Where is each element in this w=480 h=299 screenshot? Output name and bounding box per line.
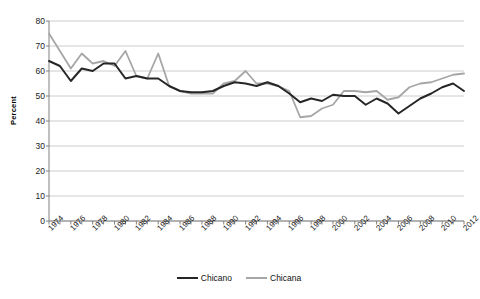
- x-axis-tick-label: 1984: [156, 214, 174, 232]
- x-axis-tick-label: 1990: [222, 214, 240, 232]
- chart-legend: ChicanoChicana: [0, 273, 478, 283]
- legend-swatch-icon: [177, 277, 198, 279]
- legend-item-chicana[interactable]: Chicana: [246, 273, 301, 283]
- x-axis-tick-label: 1994: [265, 214, 283, 232]
- x-axis-tick-label: 2004: [375, 214, 393, 232]
- legend-label: Chicana: [270, 273, 301, 283]
- legend-label: Chicano: [201, 273, 232, 283]
- x-axis-tick-label: 2010: [440, 214, 458, 232]
- x-axis-tick-label: 1982: [134, 214, 152, 232]
- x-axis-tick-label: 1988: [200, 214, 218, 232]
- x-axis-tick-label: 2012: [462, 214, 480, 232]
- x-axis-tick-label: 1978: [91, 214, 109, 232]
- legend-item-chicano[interactable]: Chicano: [177, 273, 232, 283]
- x-axis-tick-label: 1996: [287, 214, 305, 232]
- x-axis-tick-label: 1986: [178, 214, 196, 232]
- x-axis-tick-label: 1980: [113, 214, 131, 232]
- x-axis-tick-label: 1992: [244, 214, 262, 232]
- x-axis-tick-label: 2006: [396, 214, 414, 232]
- x-axis-tick-label: 1976: [69, 214, 87, 232]
- x-axis-tick-label: 2000: [331, 214, 349, 232]
- x-axis-tick-label: 1974: [47, 214, 65, 232]
- x-axis-tick-label: 2002: [353, 214, 371, 232]
- legend-swatch-icon: [246, 277, 267, 279]
- x-axis-tick-label: 2008: [418, 214, 436, 232]
- x-axis-tick-label: 1998: [309, 214, 327, 232]
